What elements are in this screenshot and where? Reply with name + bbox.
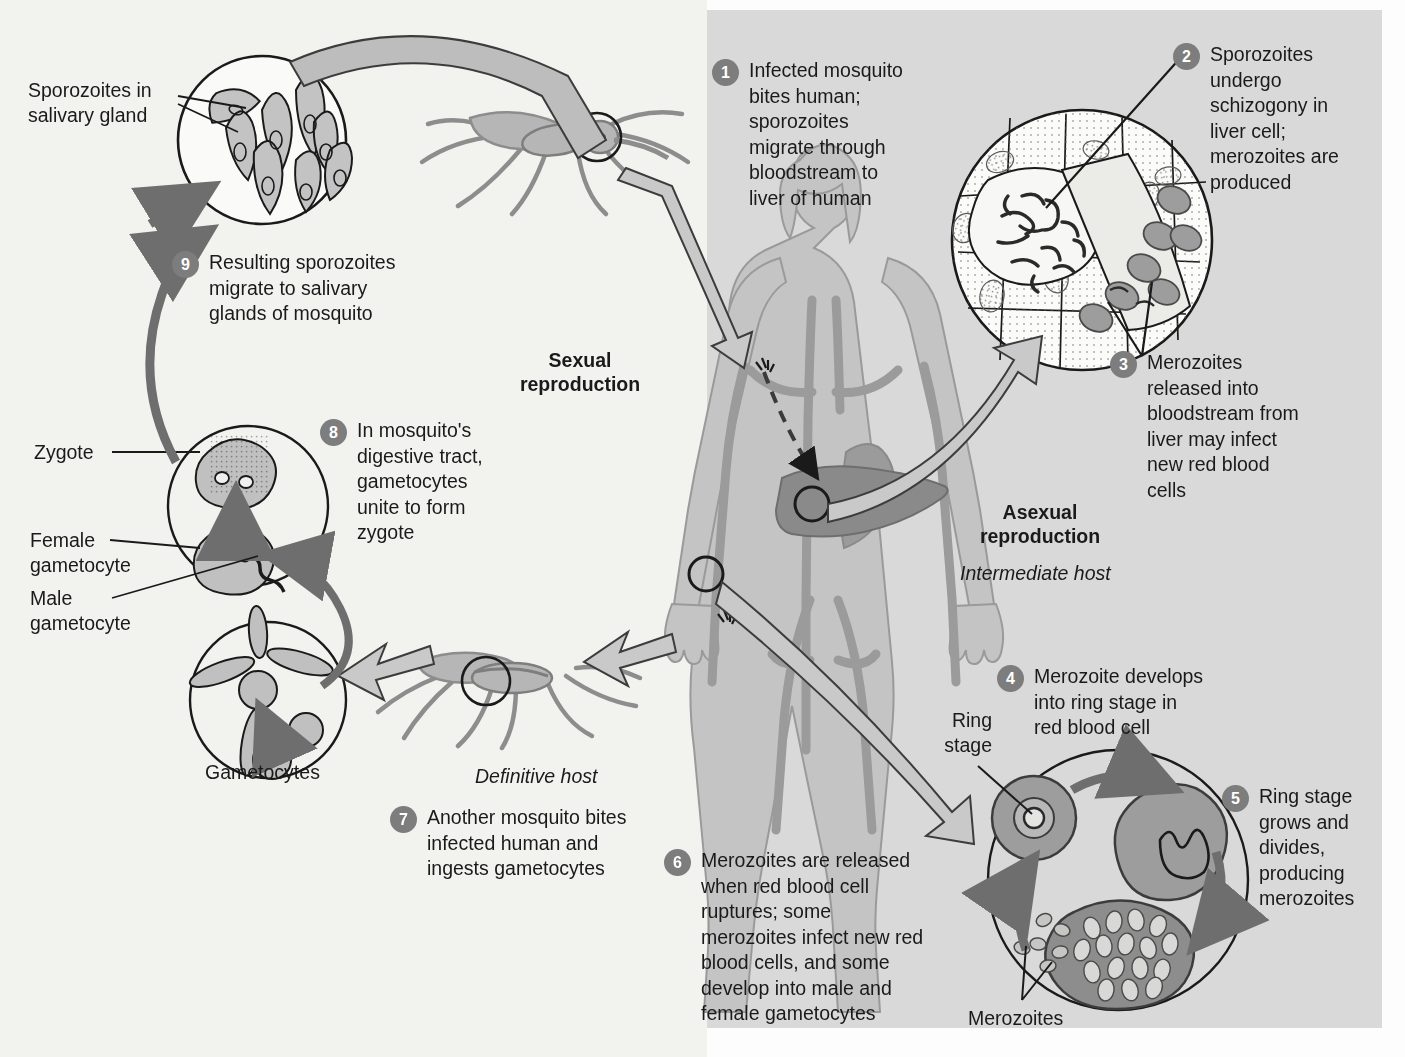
step-4-badge: 4 (997, 665, 1024, 692)
step-9-text: Resulting sporozoites migrate to salivar… (209, 250, 422, 327)
step-7: 7 Another mosquito bites infected human … (390, 805, 670, 882)
label-male-gametocyte: Male gametocyte (30, 586, 131, 636)
step-8: 8 In mosquito's digestive tract, gametoc… (320, 418, 520, 546)
step-5: 5 Ring stage grows and divides, producin… (1222, 784, 1382, 912)
arrow-into-salivary-circle (150, 190, 206, 224)
step-2-text: Sporozoites undergo schizogony in liver … (1210, 42, 1373, 195)
erythrocytic-cycle-circle (978, 750, 1248, 1010)
label-sporozoites-salivary-gland: Sporozoites in salivary gland (28, 78, 152, 128)
step-1: 1 Infected mosquito bites human; sporozo… (712, 58, 927, 211)
step-9-badge: 9 (172, 251, 199, 278)
gametocytes-circle (187, 605, 346, 779)
step-9: 9 Resulting sporozoites migrate to saliv… (172, 250, 422, 327)
step-2: 2 Sporozoites undergo schizogony in live… (1173, 42, 1373, 195)
step-8-text: In mosquito's digestive tract, gametocyt… (357, 418, 520, 546)
step-3: 3 Merozoites released into bloodstream f… (1110, 350, 1340, 503)
step-4-text: Merozoite develops into ring stage in re… (1034, 664, 1217, 741)
step-5-badge: 5 (1222, 785, 1249, 812)
label-ring-stage: Ring stage (930, 708, 992, 758)
step-4: 4 Merozoite develops into ring stage in … (997, 664, 1217, 741)
arrow-mosquito-to-gametocytes (338, 644, 434, 700)
arrow-human-to-mosquito (584, 632, 676, 686)
step-5-text: Ring stage grows and divides, producing … (1259, 784, 1382, 912)
step-2-badge: 2 (1173, 43, 1200, 70)
step-1-badge: 1 (712, 59, 739, 86)
step-6: 6 Merozoites are released when red blood… (664, 848, 964, 1027)
label-female-gametocyte: Female gametocyte (30, 528, 131, 578)
definitive-host-label: Definitive host (475, 765, 597, 788)
label-zygote: Zygote (34, 440, 94, 465)
asexual-reproduction-heading: Asexual reproduction (945, 500, 1135, 548)
figure-canvas: 1 Infected mosquito bites human; sporozo… (0, 0, 1405, 1057)
mosquito-top-illustration (422, 112, 688, 214)
step-6-text: Merozoites are released when red blood c… (701, 848, 964, 1027)
step-3-text: Merozoites released into bloodstream fro… (1147, 350, 1340, 503)
step-1-text: Infected mosquito bites human; sporozoit… (749, 58, 927, 211)
label-gametocytes: Gametocytes (205, 760, 320, 785)
zygote-circle (110, 426, 328, 598)
step-3-badge: 3 (1110, 351, 1137, 378)
salivary-gland-circle (178, 56, 352, 224)
label-merozoites: Merozoites (968, 1006, 1063, 1031)
sexual-reproduction-heading: Sexual reproduction (490, 348, 670, 396)
step-7-badge: 7 (390, 806, 417, 833)
intermediate-host-label: Intermediate host (960, 562, 1111, 585)
step-8-badge: 8 (320, 419, 347, 446)
step-7-text: Another mosquito bites infected human an… (427, 805, 670, 882)
